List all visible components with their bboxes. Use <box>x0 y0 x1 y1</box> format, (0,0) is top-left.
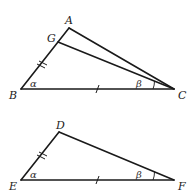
segment-ab <box>21 28 69 89</box>
label-c: C <box>178 89 187 102</box>
triangle-def: D E F α β <box>8 119 186 190</box>
angle-label-alpha-e: α <box>30 169 37 180</box>
label-d: D <box>55 119 65 132</box>
angle-arc-c <box>153 81 155 89</box>
segment-gc <box>58 42 174 89</box>
angle-label-alpha-b: α <box>30 78 37 89</box>
angle-arc-f <box>153 172 155 180</box>
angle-label-beta-c: β <box>135 78 142 89</box>
label-e: E <box>8 180 17 190</box>
label-g: G <box>47 32 56 45</box>
geometry-diagram: A G B C α β D E F α β <box>0 0 195 190</box>
segment-df <box>59 132 174 180</box>
angle-label-beta-f: β <box>135 169 142 180</box>
label-a: A <box>64 14 73 27</box>
label-f: F <box>177 180 186 190</box>
triangle-abc: A G B C α β <box>8 14 187 102</box>
label-b: B <box>8 89 17 102</box>
segment-ac <box>69 28 174 89</box>
